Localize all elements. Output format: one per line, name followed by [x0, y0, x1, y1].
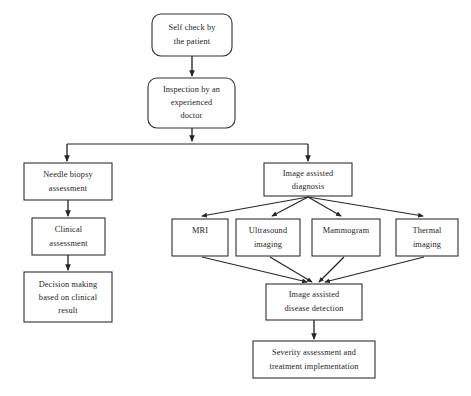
- node-needle-biopsy-shape: [24, 163, 112, 200]
- node-thermal-imaging-shape: [396, 219, 458, 256]
- node-image-assisted-diagnosis[interactable]: Image assisted diagnosis: [264, 163, 352, 196]
- node-severity-assessment-shape: [253, 341, 375, 378]
- node-self-check-label-line-2: the patient: [174, 37, 211, 46]
- node-decision-making-label-line-2: based on clinical: [39, 293, 98, 302]
- node-needle-biopsy[interactable]: Needle biopsy assessment: [24, 163, 112, 200]
- node-image-assisted-diagnosis-label-line-1: Image assisted: [283, 169, 334, 178]
- node-mri[interactable]: MRI: [172, 219, 228, 256]
- node-self-check-shape: [152, 14, 232, 56]
- node-image-assisted-detection-label-line-2: disease detection: [285, 304, 345, 313]
- node-thermal-imaging-label-line-2: imaging: [413, 240, 441, 249]
- node-clinical-assessment-shape: [32, 218, 105, 255]
- node-mri-shape: [172, 219, 228, 256]
- node-needle-biopsy-label-line-2: assessment: [49, 184, 88, 193]
- node-inspection-label-line-1: Inspection by an: [163, 85, 221, 94]
- node-clinical-assessment-label-line-1: Clinical: [55, 225, 83, 234]
- node-needle-biopsy-label-line-1: Needle biopsy: [43, 170, 93, 179]
- node-decision-making-label-line-1: Decision making: [39, 280, 98, 289]
- node-inspection[interactable]: Inspection by an experienced doctor: [148, 78, 235, 128]
- node-image-assisted-detection[interactable]: Image assisted disease detection: [266, 284, 362, 320]
- node-ultrasound-imaging[interactable]: Ultrasound imaging: [236, 219, 300, 256]
- flowchart-canvas: Self check by the patient Inspection by …: [0, 0, 471, 396]
- node-image-assisted-diagnosis-label-line-2: diagnosis: [292, 182, 325, 191]
- node-ultrasound-imaging-shape: [236, 219, 300, 256]
- node-mammogram-label: Mammogram: [323, 226, 370, 235]
- connector-layer: [67, 56, 424, 339]
- node-mammogram-shape: [312, 219, 380, 256]
- node-self-check[interactable]: Self check by the patient: [152, 14, 232, 56]
- node-mri-label: MRI: [192, 226, 208, 235]
- node-ultrasound-imaging-label-line-2: imaging: [254, 240, 282, 249]
- node-mammogram[interactable]: Mammogram: [312, 219, 380, 256]
- node-image-assisted-detection-label-line-1: Image assisted: [289, 290, 340, 299]
- node-thermal-imaging[interactable]: Thermal imaging: [396, 219, 458, 256]
- flowchart-page: Self check by the patient Inspection by …: [0, 0, 471, 396]
- node-self-check-label-line-1: Self check by: [168, 23, 216, 32]
- node-severity-assessment-label-line-1: Severity assessment and: [272, 348, 357, 357]
- node-thermal-imaging-label-line-1: Thermal: [412, 226, 442, 235]
- node-inspection-label-line-2: experienced: [171, 98, 213, 107]
- node-severity-assessment[interactable]: Severity assessment and treatment implem…: [253, 341, 375, 378]
- node-inspection-label-line-3: doctor: [180, 111, 202, 120]
- node-decision-making-label-line-3: result: [58, 306, 78, 315]
- node-decision-making[interactable]: Decision making based on clinical result: [24, 272, 112, 322]
- edge-diagnosis-to-mri: [202, 197, 308, 216]
- node-clinical-assessment-label-line-2: assessment: [49, 239, 88, 248]
- node-ultrasound-imaging-label-line-1: Ultrasound: [249, 226, 288, 235]
- node-severity-assessment-label-line-2: treatment implementation: [269, 362, 359, 371]
- node-clinical-assessment[interactable]: Clinical assessment: [32, 218, 105, 255]
